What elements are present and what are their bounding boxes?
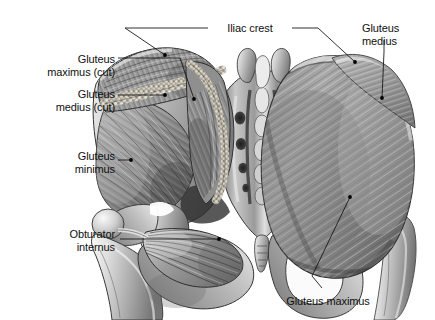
leader-gluteus-maximus-bottom-dot <box>348 195 352 199</box>
leader-gluteus-minimus-dot <box>129 158 133 162</box>
leader-gluteus-medius-right-dot <box>380 96 384 100</box>
label-iliac-crest: Iliac crest <box>215 22 285 35</box>
leader-iliac-crest-left-dot <box>163 53 167 57</box>
label-gluteus-maximus-bottom: Gluteus maximus <box>268 295 388 308</box>
leader-iliac-crest-right-dot <box>353 60 357 64</box>
label-gluteus-medius-right: Gluteus medius <box>362 22 432 48</box>
label-gluteus-medius-cut: Gluteus medius (cut) <box>10 88 115 114</box>
leader-gluteus-medius-cut-dot <box>163 93 167 97</box>
anatomy-figure: Iliac crestGluteus mediusGluteus maximus… <box>0 0 435 320</box>
label-gluteus-minimus: Gluteus minimus <box>10 150 115 176</box>
label-obturator-internus: Obturator internus <box>8 228 115 254</box>
label-gluteus-maximus-cut: Gluteus maximus (cut) <box>10 53 115 79</box>
leader-gluteus-maximus-cut-dot <box>192 97 196 101</box>
leader-obturator-internus-dot <box>217 237 221 241</box>
